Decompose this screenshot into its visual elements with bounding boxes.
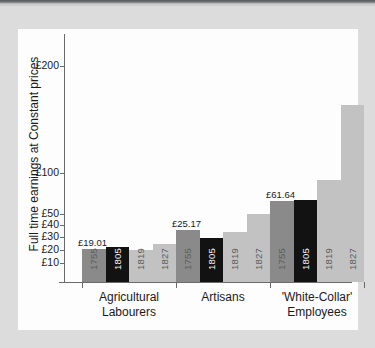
y-tick-label-wrap: £10 (18, 257, 59, 267)
y-axis-line (64, 34, 65, 283)
y-tick-label: £40 (18, 219, 59, 229)
bar-year-label: 1819 (223, 238, 247, 280)
y-tick-label-wrap: £50 (18, 208, 59, 218)
bar-value-label: £19.01 (78, 237, 107, 248)
x-group-label-line1: 'White-Collar' (250, 290, 375, 305)
y-tick-mark (60, 66, 65, 67)
y-tick-mark (60, 214, 65, 215)
bar[interactable]: 1827 (153, 244, 177, 282)
x-tick-mark (270, 282, 271, 288)
y-tick-label: £50 (18, 208, 59, 218)
bar-year-label: 1819 (129, 238, 153, 280)
bar-value-label: £61.64 (266, 189, 295, 200)
bar[interactable]: 1819 (223, 232, 247, 282)
bar-year-label: 1827 (247, 238, 271, 280)
bar[interactable]: 1805 (106, 247, 130, 282)
x-group-label: 'White-Collar'Employees (250, 290, 375, 320)
x-group-label-line2: Labourers (62, 305, 196, 320)
bar[interactable]: 1819 (129, 250, 153, 282)
page-background: Full time earnings at Constant prices £2… (0, 0, 375, 348)
bar[interactable]: 1805 (294, 200, 318, 282)
scan-top-edge-shadow (0, 4, 375, 6)
bar-year-label: 1827 (153, 238, 177, 280)
y-tick-mark (60, 250, 65, 251)
y-tick-label-wrap: £100 (18, 167, 59, 177)
y-tick-label-wrap: £40 (18, 219, 59, 229)
bar-chart-plot: Full time earnings at Constant prices £2… (18, 29, 358, 330)
bar-year-label: 1819 (317, 238, 341, 280)
y-tick-label-wrap: £30 (18, 231, 59, 241)
x-group-label-line2: Employees (250, 305, 375, 320)
bar-year-label: 1805 (106, 238, 130, 280)
x-axis-line (59, 282, 352, 283)
y-tick-mark (60, 225, 65, 226)
bar[interactable]: 1755 (176, 230, 200, 282)
bar[interactable]: 1827 (247, 214, 271, 282)
y-tick-mark (60, 173, 65, 174)
y-tick-mark (60, 263, 65, 264)
y-tick-label-wrap: £200 (18, 60, 59, 70)
x-tick-mark (176, 282, 177, 288)
bar-year-label: 1805 (294, 238, 318, 280)
bar-year-label: 1755 (270, 238, 294, 280)
y-tick-label: £200 (18, 60, 59, 70)
x-tick-mark (82, 282, 83, 288)
bar-value-label: £25.17 (172, 218, 201, 229)
bar-year-label: 1805 (200, 238, 224, 280)
y-tick-label: £30 (18, 231, 59, 241)
y-tick-label: £20 (18, 244, 59, 254)
x-tick-mark (364, 282, 365, 288)
bar[interactable]: 1755 (82, 249, 106, 282)
bar[interactable]: 1819 (317, 180, 341, 282)
bar-year-label: 1755 (176, 238, 200, 280)
y-tick-label: £10 (18, 257, 59, 267)
bar[interactable]: 1755 (270, 201, 294, 282)
bar[interactable]: 1827 (341, 105, 365, 282)
bar-year-label: 1827 (341, 238, 365, 280)
bar[interactable]: 1805 (200, 238, 224, 282)
chart-panel: Full time earnings at Constant prices £2… (18, 29, 358, 330)
y-tick-label: £100 (18, 167, 59, 177)
y-tick-label-wrap: £20 (18, 244, 59, 254)
y-tick-mark (60, 237, 65, 238)
